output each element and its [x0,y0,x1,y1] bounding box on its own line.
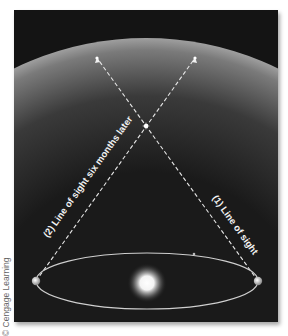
diagram-canvas: (1) Line of sight (2) Line of sight six … [14,10,278,322]
earth-position-left [32,277,40,285]
sun-icon [127,263,167,303]
copyright-credit: © Cengage Learning [1,226,11,336]
earth-position-right [254,277,262,285]
orbit-direction-marker [193,253,196,256]
parallax-diagram: (1) Line of sight (2) Line of sight six … [14,10,278,322]
